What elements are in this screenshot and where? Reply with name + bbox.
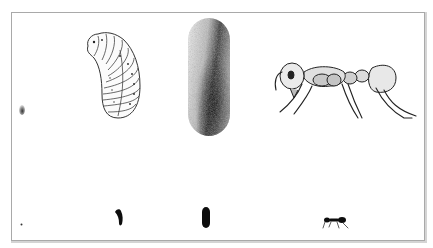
egg-dot-icon: [20, 223, 23, 226]
egg-icon: [17, 103, 27, 117]
frame-shadow-bottom: [11, 241, 427, 243]
larva-silhouette-icon: [114, 208, 124, 226]
frame-shadow-right: [425, 12, 427, 243]
cocoon-silhouette-icon: [201, 206, 211, 229]
ant-icon: [272, 60, 420, 122]
ant-silhouette-icon: [322, 216, 350, 230]
cocoon-icon: [186, 16, 232, 138]
larva-icon: [84, 30, 146, 122]
